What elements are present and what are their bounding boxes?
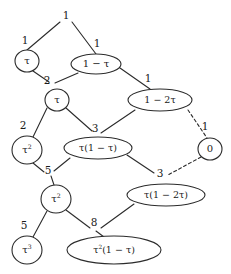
edge bbox=[55, 73, 78, 83]
edge bbox=[33, 71, 49, 82]
edge bbox=[27, 22, 60, 50]
node-ellipse bbox=[67, 236, 161, 264]
edge bbox=[33, 108, 47, 137]
node-circle bbox=[41, 185, 71, 213]
edge bbox=[101, 204, 134, 228]
edge bbox=[66, 210, 90, 228]
node-circle bbox=[45, 89, 69, 111]
edge bbox=[66, 108, 92, 131]
edge bbox=[33, 163, 44, 172]
node-ellipse bbox=[127, 184, 205, 206]
diagram-canvas: τ1 − ττ1 − 2ττ2τ(1 − τ)0τ2τ(1 − 2τ)τ3τ2(… bbox=[0, 0, 231, 274]
node-ellipse bbox=[64, 137, 132, 159]
edge-layer bbox=[0, 0, 231, 274]
node-ellipse bbox=[71, 54, 121, 74]
edge bbox=[51, 176, 54, 185]
edge bbox=[127, 155, 154, 173]
edge bbox=[33, 211, 47, 237]
node-circle bbox=[198, 138, 222, 160]
node-circle bbox=[12, 136, 42, 164]
node-ellipse bbox=[128, 89, 192, 111]
edge bbox=[188, 110, 207, 138]
node-circle bbox=[12, 236, 42, 264]
edge bbox=[168, 157, 201, 175]
edge bbox=[101, 110, 135, 133]
node-circle bbox=[15, 50, 39, 72]
edge bbox=[120, 68, 150, 89]
edge bbox=[54, 158, 70, 171]
edge bbox=[72, 22, 96, 54]
